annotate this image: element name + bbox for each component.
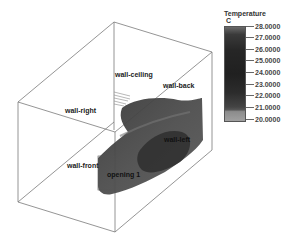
legend-tick-label: 25.0000 (255, 57, 280, 64)
legend-tick-label: 24.0000 (255, 69, 280, 76)
legend-tick (246, 60, 254, 61)
label-wall-front: wall-front (67, 162, 99, 169)
legend-tick-label: 20.0000 (255, 116, 280, 123)
label-wall-right: wall-right (65, 107, 96, 114)
legend-tick (246, 72, 254, 73)
label-wall-ceiling: wall-ceiling (115, 71, 153, 78)
legend-tick-label: 22.0000 (255, 92, 280, 99)
inlet-hatch (114, 92, 130, 106)
legend-tick (246, 84, 254, 85)
legend-tick-label: 21.0000 (255, 104, 280, 111)
legend-tick-label: 27.0000 (255, 34, 280, 41)
label-opening-1: opening 1 (107, 171, 140, 178)
legend-title: Temperature C (224, 10, 266, 24)
label-wall-back: wall-back (163, 82, 195, 89)
legend-title-text: Temperature (224, 10, 266, 17)
temperature-legend: Temperature C 28.0000 27.0000 26.0000 25… (222, 10, 292, 130)
legend-tick (246, 37, 254, 38)
legend-color-bar (224, 26, 246, 122)
legend-tick (246, 119, 254, 120)
legend-tick (246, 95, 254, 96)
legend-tick (246, 49, 254, 50)
legend-tick-label: 28.0000 (255, 23, 280, 30)
legend-tick (246, 26, 254, 27)
legend-tick-label: 26.0000 (255, 46, 280, 53)
label-wall-left: wall-left (164, 136, 190, 143)
legend-tick (246, 107, 254, 108)
legend-tick-label: 23.0000 (255, 81, 280, 88)
